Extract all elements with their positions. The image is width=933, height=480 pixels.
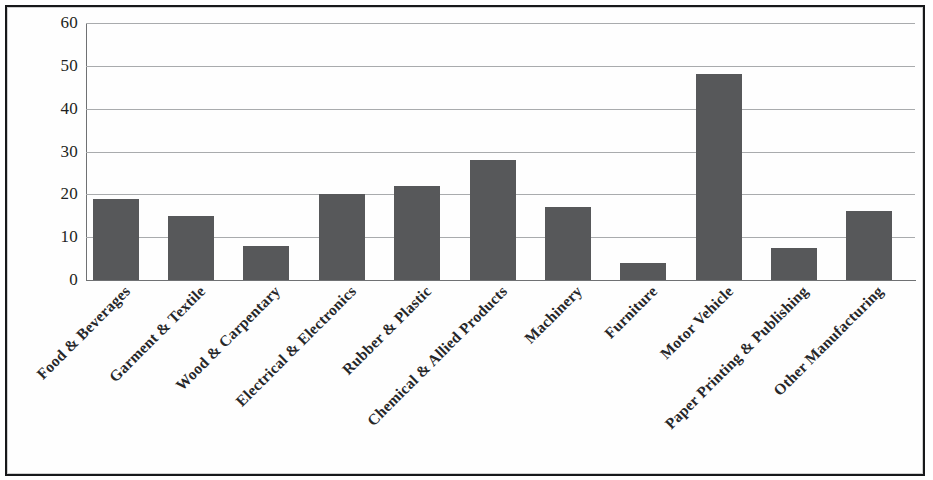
x-axis-tick-label: Machinery — [521, 283, 585, 347]
x-axis-tick-label: Chemical & Allied Products — [364, 283, 510, 429]
bar[interactable] — [319, 194, 365, 280]
bar[interactable] — [93, 199, 139, 280]
x-axis-line — [86, 280, 916, 281]
bar[interactable] — [470, 160, 516, 280]
plot-area — [86, 23, 915, 280]
y-axis-tick-label: 20 — [0, 185, 78, 202]
y-axis-tick-label: 60 — [0, 14, 78, 31]
gridline — [86, 152, 915, 153]
y-axis-tick-label: 50 — [0, 57, 78, 74]
bar-chart-figure: 6050403020100 Food & BeveragesGarment & … — [0, 0, 933, 480]
bar[interactable] — [620, 263, 666, 280]
y-axis-tick-labels: 6050403020100 — [0, 23, 78, 281]
bar[interactable] — [394, 186, 440, 280]
y-axis-tick-label: 0 — [0, 271, 78, 288]
y-axis-tick-label: 30 — [0, 143, 78, 160]
y-axis-tick-label: 40 — [0, 100, 78, 117]
x-axis-tick-labels: Food & BeveragesGarment & TextileWood & … — [86, 283, 926, 478]
bar[interactable] — [545, 207, 591, 280]
bar[interactable] — [168, 216, 214, 280]
gridline — [86, 109, 915, 110]
bar[interactable] — [771, 248, 817, 280]
x-axis-tick-label: Furniture — [602, 283, 661, 342]
x-axis-tick-label: Paper Printing & Publishing — [662, 283, 811, 432]
bar[interactable] — [243, 246, 289, 280]
bar[interactable] — [696, 74, 742, 280]
x-axis-tick-label: Motor Vehicle — [657, 283, 736, 362]
gridline — [86, 66, 915, 67]
y-axis-tick-label: 10 — [0, 228, 78, 245]
bar[interactable] — [846, 211, 892, 280]
gridline — [86, 23, 915, 24]
